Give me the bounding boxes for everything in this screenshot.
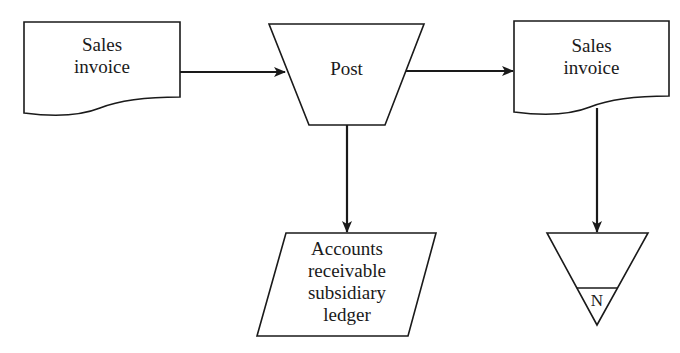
label-sales-invoice-in: Sales invoice xyxy=(24,34,180,78)
label-ar-ledger: Accounts receivable subsidiary ledger xyxy=(262,238,432,326)
label-file-n: N xyxy=(577,290,617,312)
label-post: Post xyxy=(269,58,424,80)
label-sales-invoice-out: Sales invoice xyxy=(514,35,669,79)
